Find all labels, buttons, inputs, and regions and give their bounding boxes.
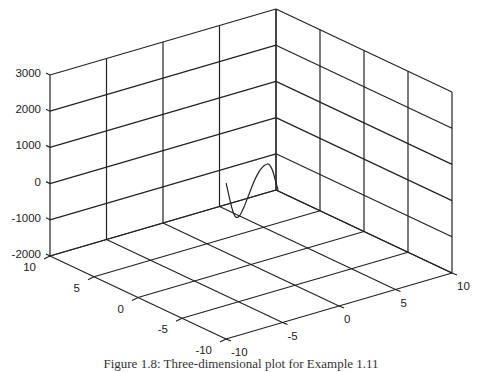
z-tick-label: -1000	[12, 212, 41, 224]
series-line-curve	[226, 164, 278, 218]
x-tick	[44, 256, 50, 259]
z-tick-label: 0	[35, 176, 41, 188]
y-tick-label: 0	[344, 313, 350, 325]
floor-gridline-y	[107, 240, 283, 323]
y-tick	[452, 273, 457, 275]
x-tick	[176, 318, 182, 321]
z-tick-label: 3000	[15, 67, 41, 79]
y-tick	[283, 323, 288, 325]
z-tick-label: 2000	[15, 103, 41, 115]
y-tick-label: 10	[457, 280, 470, 292]
floor-gridline-y	[220, 207, 396, 290]
y-tick	[339, 306, 344, 308]
y-tick-label: -5	[288, 330, 298, 342]
x-tick-label: 10	[23, 261, 36, 273]
x-tick	[132, 298, 138, 301]
y-tick	[226, 339, 231, 341]
x-tick	[88, 277, 94, 280]
x-tick-label: -10	[195, 344, 212, 356]
y-tick-label: 5	[401, 297, 407, 309]
figure-caption: Figure 1.8: Three-dimensional plot for E…	[0, 356, 482, 372]
x-tick-label: 5	[74, 282, 80, 294]
x-tick-label: 0	[118, 303, 124, 315]
y-tick	[396, 290, 401, 292]
grid-lines	[50, 9, 452, 339]
data-series	[226, 164, 278, 218]
z-tick-label: -2000	[12, 248, 41, 260]
floor-gridline-y	[163, 223, 339, 306]
z-tick-label: 1000	[15, 139, 41, 151]
x-tick	[220, 339, 226, 342]
z-tick	[46, 73, 50, 75]
x-tick-label: -5	[158, 323, 168, 335]
